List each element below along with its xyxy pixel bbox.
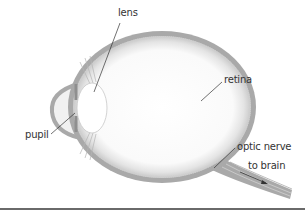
eye-illustration [0,0,305,214]
label-pupil: pupil [25,130,49,140]
label-lens: lens [118,8,138,18]
lens-shape [77,83,107,133]
label-optic-nerve: optic nerve [237,142,291,152]
label-to-brain: to brain [248,161,285,171]
bottom-divider [0,208,305,210]
label-retina: retina [224,75,252,85]
